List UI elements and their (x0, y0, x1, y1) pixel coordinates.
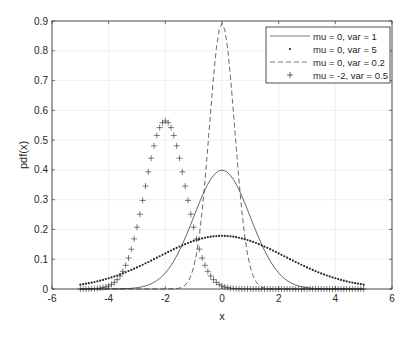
dot-marker (218, 235, 220, 237)
dot-marker (193, 240, 195, 242)
dot-marker (159, 255, 161, 257)
plus-marker (182, 183, 188, 189)
plus-marker (148, 155, 154, 161)
dot-marker (320, 272, 322, 274)
x-tick-label: 2 (276, 293, 282, 304)
dot-marker (156, 257, 158, 259)
dot-marker (297, 262, 299, 264)
plus-marker (100, 285, 106, 291)
dot-marker (153, 258, 155, 260)
plus-marker (128, 246, 134, 252)
y-tick-label: 0.2 (34, 224, 48, 235)
plus-marker (151, 143, 157, 149)
x-tick-label: 0 (219, 293, 225, 304)
dot-marker (227, 235, 229, 237)
dot-marker (201, 237, 203, 239)
dot-marker (309, 268, 311, 270)
plus-marker (228, 285, 234, 291)
dot-marker (113, 275, 115, 277)
dot-marker (360, 283, 362, 285)
dot-marker (346, 280, 348, 282)
dot-marker (303, 265, 305, 267)
dot-marker (210, 236, 212, 238)
plus-marker (97, 285, 103, 291)
y-tick-label: 0.5 (34, 135, 48, 146)
y-tick-label: 0.6 (34, 105, 48, 116)
plus-marker (120, 268, 126, 274)
dot-marker (144, 262, 146, 264)
y-tick-label: 0.3 (34, 194, 48, 205)
dot-marker (238, 237, 240, 239)
dot-marker (278, 252, 280, 254)
dot-marker (306, 266, 308, 268)
dot-marker (88, 282, 90, 284)
dot-marker (348, 281, 350, 283)
dot-marker (258, 243, 260, 245)
legend-label: mu = 0, var = 1 (313, 31, 377, 42)
plus-marker (185, 197, 191, 203)
plus-marker (131, 236, 137, 242)
dot-marker (275, 251, 277, 253)
x-tick-label: 6 (389, 293, 395, 304)
plus-marker (154, 132, 160, 138)
dot-marker (147, 261, 149, 263)
dot-marker (207, 236, 209, 238)
dot-marker (181, 244, 183, 246)
plus-marker (171, 132, 177, 138)
dot-marker (79, 284, 81, 286)
dot-marker (235, 236, 237, 238)
dot-marker (176, 247, 178, 249)
plus-marker (160, 120, 166, 126)
legend-label: mu = -2, var = 0.5 (313, 70, 388, 81)
dot-marker (249, 240, 251, 242)
dot-marker (363, 284, 365, 286)
dot-marker (85, 283, 87, 285)
y-tick-label: 0.1 (34, 254, 48, 265)
plus-marker (174, 143, 180, 149)
y-tick-label: 0 (42, 284, 48, 295)
dot-marker (91, 281, 93, 283)
dot-marker (130, 269, 132, 271)
legend-label: mu = 0, var = 0.2 (313, 57, 385, 68)
dot-marker (292, 259, 294, 261)
dot-marker (283, 255, 285, 257)
plus-marker (143, 183, 149, 189)
y-tick-label: 0.9 (34, 16, 48, 27)
plus-marker (208, 273, 214, 279)
dot-marker (323, 273, 325, 275)
dot-marker (334, 277, 336, 279)
y-tick-labels: 00.10.20.30.40.50.60.70.80.9 (34, 16, 48, 295)
dot-marker (331, 276, 333, 278)
dot-marker (190, 241, 192, 243)
dot-marker (241, 237, 243, 239)
dot-marker (261, 244, 263, 246)
chart-figure: -6-4-20246 00.10.20.30.40.50.60.70.80.9 … (0, 0, 413, 337)
dot-marker (351, 281, 353, 283)
dot-marker (289, 258, 291, 260)
dot-marker (82, 283, 84, 285)
dot-marker (105, 278, 107, 280)
dot-marker (161, 254, 163, 256)
plus-marker (199, 255, 205, 261)
x-tick-label: -6 (48, 293, 57, 304)
dot-marker (232, 236, 234, 238)
dot-marker (170, 249, 172, 251)
dot-marker (266, 247, 268, 249)
y-tick-label: 0.4 (34, 164, 48, 175)
dot-marker (286, 257, 288, 259)
dot-marker (96, 280, 98, 282)
dot-marker (229, 235, 231, 237)
dot-marker (167, 251, 169, 253)
dot-marker (150, 259, 152, 261)
plus-marker (168, 125, 174, 131)
dot-marker (312, 269, 314, 271)
dot-marker (280, 254, 282, 256)
dot-marker (337, 278, 339, 280)
x-axis-label: x (219, 310, 225, 322)
dot-marker (184, 243, 186, 245)
plus-marker (205, 268, 211, 274)
plus-marker (157, 125, 163, 131)
dot-marker (215, 235, 217, 237)
dot-marker (93, 281, 95, 283)
x-tick-label: -2 (161, 293, 170, 304)
